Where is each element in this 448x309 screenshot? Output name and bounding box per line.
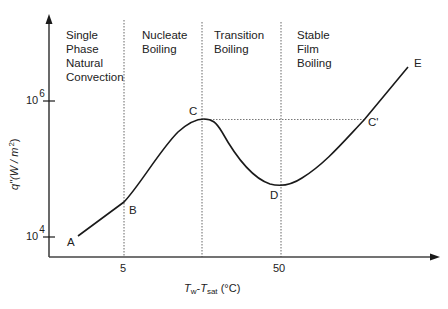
region-label-single-phase: Single Phase Natural Convection (66, 28, 124, 84)
region-line: Phase (66, 42, 124, 56)
region-line: Stable (297, 28, 332, 42)
x-title-sub-w: w (191, 287, 197, 296)
region-label-nucleate: Nucleate Boiling (142, 28, 187, 56)
point-label-c-prime: C' (368, 115, 379, 129)
x-axis-title: Tw-Tsat (°C) (184, 282, 240, 294)
x-title-sub-sat: sat (207, 287, 218, 296)
point-label-e: E (414, 56, 422, 70)
x-title-t: T (184, 282, 191, 294)
y-axis-title-text: q"(W / m (8, 148, 20, 190)
y-axis-arrow-icon (46, 14, 53, 24)
x-tick-label-5: 5 (120, 262, 126, 274)
point-label-b: B (129, 203, 137, 217)
region-line: Transition (214, 28, 264, 42)
x-title-unit: (°C) (218, 282, 241, 294)
y-axis-title-sup: 2 (7, 142, 16, 146)
point-label-c: C (189, 104, 197, 118)
boiling-curve (78, 67, 408, 236)
region-line: Natural (66, 56, 124, 70)
tick-exponent: 4 (39, 224, 45, 235)
region-line: Film (297, 42, 332, 56)
tick-base: 10 (26, 230, 38, 242)
y-tick-label-1e6: 106 (26, 94, 45, 106)
y-tick-label-1e4: 104 (26, 230, 45, 242)
region-line: Nucleate (142, 28, 187, 42)
x-tick-label-50: 50 (273, 262, 285, 274)
region-line: Single (66, 28, 124, 42)
point-label-a: A (67, 235, 75, 249)
tick-exponent: 6 (39, 88, 45, 99)
region-line: Boiling (214, 42, 264, 56)
region-line: Boiling (297, 56, 332, 70)
point-label-d: D (270, 188, 278, 202)
tick-base: 10 (26, 94, 38, 106)
region-label-film: Stable Film Boiling (297, 28, 332, 70)
region-line: Boiling (142, 42, 187, 56)
x-axis-arrow-icon (430, 254, 440, 261)
region-label-transition: Transition Boiling (214, 28, 264, 56)
region-line: Convection (66, 70, 124, 84)
x-title-t2: T (200, 282, 207, 294)
y-axis-title: q"(W / m2) (8, 138, 20, 190)
